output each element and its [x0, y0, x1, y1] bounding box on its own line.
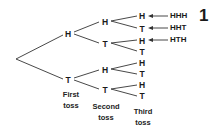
- third-toss-node: H: [139, 59, 145, 68]
- second-toss-node: T: [102, 86, 107, 95]
- first-toss-node: H: [65, 30, 71, 39]
- third-toss-label: Third toss: [134, 106, 153, 128]
- outcome-label: HHH: [170, 12, 187, 20]
- outcome-label: HTH: [170, 36, 186, 44]
- outcome-label: HHT: [170, 24, 186, 32]
- third-toss-node: H: [139, 37, 145, 46]
- third-toss-node: H: [139, 12, 145, 21]
- second-toss-node: H: [102, 66, 108, 75]
- third-toss-node: H: [139, 81, 145, 90]
- third-toss-node: T: [139, 70, 144, 79]
- first-toss-label: First toss: [63, 89, 79, 111]
- second-toss-node: H: [102, 18, 108, 27]
- figure-number: 1: [199, 6, 208, 26]
- third-toss-node: T: [139, 48, 144, 57]
- third-toss-node: T: [139, 25, 144, 34]
- third-toss-node: T: [139, 92, 144, 101]
- first-toss-node: T: [65, 76, 70, 85]
- second-toss-node: T: [102, 40, 107, 49]
- second-toss-label: Second toss: [92, 101, 119, 123]
